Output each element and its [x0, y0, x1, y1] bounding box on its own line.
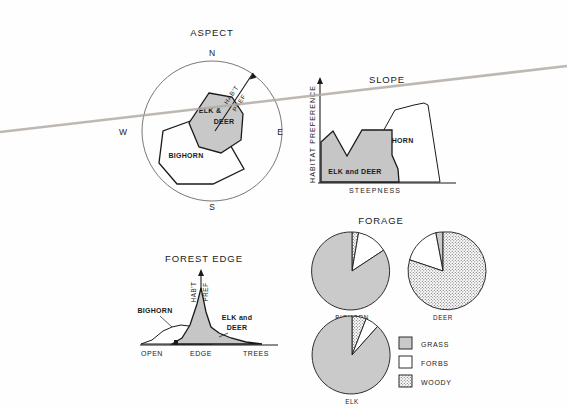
forest-edge-xtick-trees: TREES: [243, 350, 269, 357]
pie-deer-label: DEER: [433, 314, 453, 321]
figure-canvas: ASPECT N E S W BIGHORN ELK & DEER HAB'T …: [0, 0, 567, 408]
aspect-bighorn-label: BIGHORN: [168, 152, 203, 159]
forest-edge-elk-deer-label-line1: ELK and: [222, 314, 253, 321]
slope-title: SLOPE: [369, 74, 405, 85]
legend-swatch-forbs: [399, 356, 412, 368]
forest-edge-title: FOREST EDGE: [165, 253, 243, 264]
forest-edge-axis-label-habt: HAB'T: [190, 282, 197, 303]
slope-y-axis-label: HABITAT PREFERENCE: [309, 85, 316, 183]
legend-label-woody: WOODY: [421, 379, 452, 386]
forest-edge-bighorn-leader: [160, 316, 172, 327]
aspect-title: ASPECT: [190, 27, 233, 38]
panel-forage: FORAGE BIGHORN DEER ELK: [312, 215, 486, 405]
compass-west-label: W: [119, 127, 127, 137]
slope-x-axis-label: STEEPNESS: [349, 187, 401, 194]
forage-legend: GRASS FORBS WOODY: [399, 337, 452, 387]
slope-y-axis-arrowhead: [317, 77, 323, 84]
pie-elk-label: ELK: [345, 398, 359, 405]
pie-deer: DEER: [408, 232, 486, 321]
forest-edge-xtick-edge: EDGE: [190, 350, 212, 357]
compass-north-label: N: [209, 48, 215, 58]
panel-aspect: ASPECT N E S W BIGHORN ELK & DEER HAB'T …: [119, 27, 283, 212]
pie-elk: ELK: [312, 316, 390, 405]
compass-south-label: S: [209, 202, 215, 212]
figure-root: ASPECT N E S W BIGHORN ELK & DEER HAB'T …: [0, 0, 567, 408]
legend-swatch-grass: [399, 337, 412, 349]
legend-swatch-woody: [399, 375, 412, 387]
forage-title: FORAGE: [358, 215, 404, 226]
pie-bighorn: BIGHORN: [312, 232, 390, 321]
aspect-elk-deer-label-line2: DEER: [214, 118, 235, 125]
pie-elk-slice-grass: [312, 316, 390, 394]
panel-forest-edge: FOREST EDGE HAB'T PREF BIGHORN ELK and D…: [137, 253, 278, 357]
slope-elk-deer-label: ELK and DEER: [328, 168, 381, 175]
legend-label-grass: GRASS: [421, 341, 449, 348]
forest-edge-xtick-open: OPEN: [141, 350, 163, 357]
legend-label-forbs: FORBS: [421, 360, 449, 367]
forest-edge-bighorn-label: BIGHORN: [137, 307, 172, 314]
forest-edge-elk-deer-label-line2: DEER: [227, 324, 248, 331]
forest-edge-y-axis-arrowhead: [198, 269, 204, 276]
scan-artifact-line: [0, 66, 567, 132]
panel-slope: SLOPE HABITAT PREFERENCE STEEPNESS BIGHO…: [309, 74, 456, 194]
